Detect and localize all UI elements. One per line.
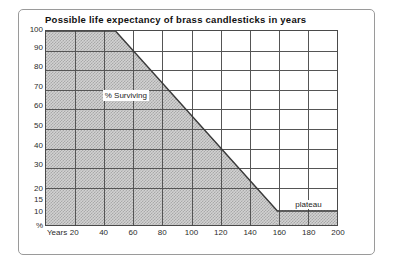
- gridline-v-100: [192, 31, 193, 225]
- y-tick-40: 40: [19, 142, 43, 150]
- x-tick-180: 180: [302, 228, 315, 237]
- y-tick-15: 15: [19, 196, 43, 204]
- gridline-v-60: [133, 31, 134, 225]
- gridline-v-20: [75, 31, 76, 225]
- gridline-v-160: [279, 31, 280, 225]
- x-axis: Years 20 40 60 80 100 120 140 160 180 20…: [45, 228, 338, 242]
- y-tick-70: 70: [19, 83, 43, 91]
- x-tick-20: 20: [70, 228, 79, 237]
- y-axis-unit-label: %: [19, 222, 43, 230]
- y-tick-80: 80: [19, 63, 43, 71]
- x-tick-40: 40: [99, 228, 108, 237]
- x-axis-origin-label: Years: [47, 228, 67, 237]
- y-tick-50: 50: [19, 122, 43, 130]
- annotation-percent-surviving: % Surviving: [103, 90, 149, 101]
- y-tick-30: 30: [19, 161, 43, 169]
- y-tick-90: 90: [19, 44, 43, 52]
- x-tick-60: 60: [128, 228, 137, 237]
- x-tick-200: 200: [331, 228, 344, 237]
- y-tick-60: 60: [19, 102, 43, 110]
- gridline-v-40: [104, 31, 105, 225]
- annotation-plateau: plateau: [293, 200, 323, 209]
- x-tick-120: 120: [214, 228, 227, 237]
- y-tick-10: 10: [19, 208, 43, 216]
- x-tick-80: 80: [158, 228, 167, 237]
- y-tick-20: 20: [19, 185, 43, 193]
- gridline-v-120: [221, 31, 222, 225]
- y-axis: 100 90 80 70 60 50 40 30 20 15 10 %: [19, 30, 43, 226]
- figure-panel: Possible life expectancy of brass candle…: [18, 9, 375, 255]
- chart-title: Possible life expectancy of brass candle…: [45, 14, 306, 25]
- gridline-v-180: [308, 31, 309, 225]
- x-tick-100: 100: [185, 228, 198, 237]
- gridline-v-80: [162, 31, 163, 225]
- x-tick-140: 140: [243, 228, 256, 237]
- plot-area: % Surviving plateau: [45, 30, 338, 226]
- x-tick-160: 160: [273, 228, 286, 237]
- gridline-v-140: [250, 31, 251, 225]
- y-tick-100: 100: [19, 26, 43, 34]
